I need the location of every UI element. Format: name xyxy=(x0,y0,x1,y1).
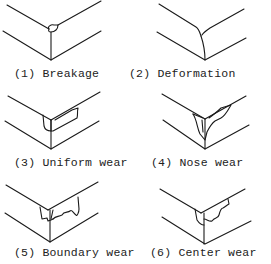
caption-nose-wear: (4) Nose wear xyxy=(151,156,243,169)
panel-boundary-wear: (5) Boundary wear xyxy=(0,175,135,263)
caption-center-wear: (6) Center wear xyxy=(150,246,257,259)
panel-uniform-wear: (3) Uniform wear xyxy=(0,88,135,176)
caption-breakage: (1) Breakage xyxy=(14,67,99,80)
panel-nose-wear: (4) Nose wear xyxy=(135,88,270,176)
panel-center-wear: (6) Center wear xyxy=(135,175,270,263)
caption-deformation: (2) Deformation xyxy=(129,67,236,80)
panel-deformation: (2) Deformation xyxy=(135,0,270,88)
caption-uniform-wear: (3) Uniform wear xyxy=(14,156,128,169)
panel-breakage: (1) Breakage xyxy=(0,0,135,88)
caption-boundary-wear: (5) Boundary wear xyxy=(14,246,135,259)
